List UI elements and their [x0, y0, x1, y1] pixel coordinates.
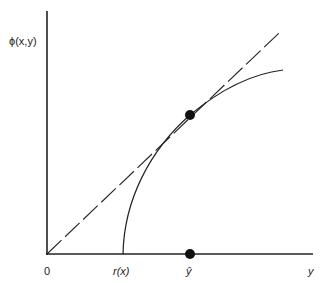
- x-tick-y-hat: ŷ: [186, 265, 192, 277]
- diagram-canvas: ϕ(x,y) 0 r(x) ŷ y: [0, 0, 323, 283]
- concave-curve: [123, 70, 283, 254]
- x-tick-r-of-x: r(x): [113, 265, 130, 277]
- origin-label: 0: [44, 265, 50, 277]
- tangency-point: [185, 110, 195, 120]
- y-axis-label: ϕ(x,y): [9, 35, 37, 47]
- diagram-svg: [0, 0, 323, 283]
- x-axis-label: y: [308, 265, 314, 277]
- axis-point: [185, 249, 195, 259]
